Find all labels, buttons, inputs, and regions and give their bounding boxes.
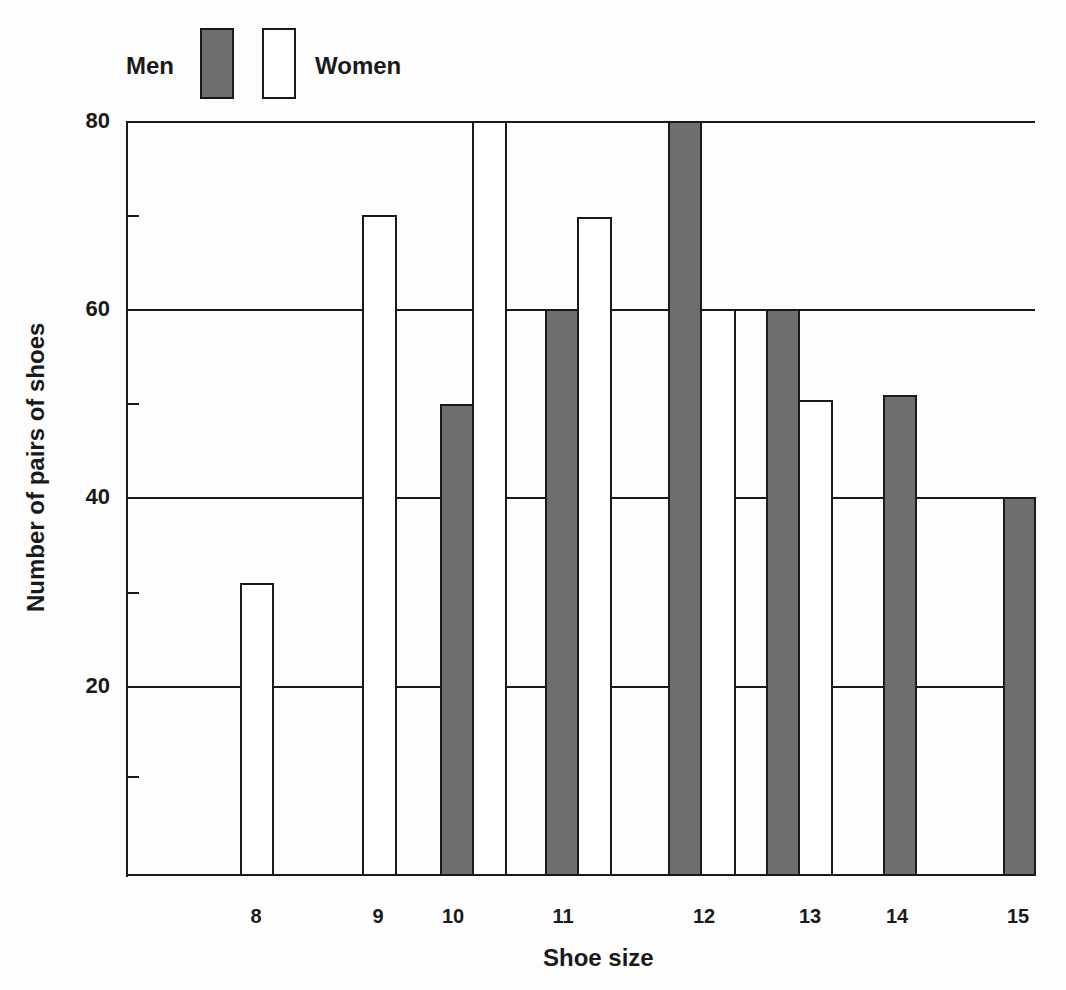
x-tick-label-9: 9: [358, 905, 398, 928]
minor-tick-30: [126, 592, 139, 594]
x-tick-label-15: 15: [998, 905, 1038, 928]
bar-women-10: [472, 121, 507, 876]
bar-men-15: [1003, 497, 1036, 876]
x-tick-label-13: 13: [790, 905, 830, 928]
bar-women-9: [362, 215, 397, 876]
bar-men-11: [545, 309, 579, 876]
x-tick-label-8: 8: [236, 905, 276, 928]
legend-men-label: Men: [126, 52, 174, 80]
minor-tick-70: [126, 215, 139, 217]
bar-women-8: [240, 583, 274, 876]
x-tick-label-10: 10: [433, 905, 473, 928]
bar-women-13: [798, 400, 833, 876]
legend-women-label: Women: [315, 52, 401, 80]
legend-men-swatch: [200, 28, 234, 99]
x-tick-label-12: 12: [684, 905, 724, 928]
bar-men-13: [766, 309, 800, 876]
y-tick-label-20: 20: [50, 673, 110, 699]
x-tick-label-14: 14: [877, 905, 917, 928]
legend-women-swatch: [262, 28, 296, 99]
bar-men-10: [440, 404, 474, 876]
minor-tick-10: [126, 776, 139, 778]
minor-tick-50: [126, 403, 139, 405]
y-axis-line: [126, 121, 128, 877]
bar-men-12: [668, 121, 702, 876]
y-tick-label-60: 60: [50, 296, 110, 322]
bar-men-14: [883, 395, 917, 876]
gridline-80: [126, 121, 1035, 123]
bar-women-11: [577, 217, 612, 876]
y-axis-title: Number of pairs of shoes: [22, 323, 50, 612]
y-tick-label-40: 40: [50, 484, 110, 510]
bar-women-12: [700, 309, 736, 876]
x-tick-label-11: 11: [543, 905, 583, 928]
y-tick-label-80: 80: [50, 108, 110, 134]
x-axis-title: Shoe size: [543, 944, 654, 972]
